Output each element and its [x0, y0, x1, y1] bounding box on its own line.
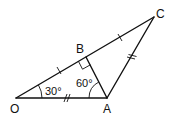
angle-label-30: 30° [45, 85, 62, 97]
point-label-b: B [76, 42, 84, 56]
point-label-a: A [103, 102, 111, 116]
point-label-o: O [10, 102, 19, 116]
angle-label-60: 60° [76, 77, 93, 89]
point-label-c: C [156, 7, 165, 21]
geometry-diagram: O A B C 30° 60° [0, 0, 174, 119]
angle-arc-o [38, 85, 42, 98]
